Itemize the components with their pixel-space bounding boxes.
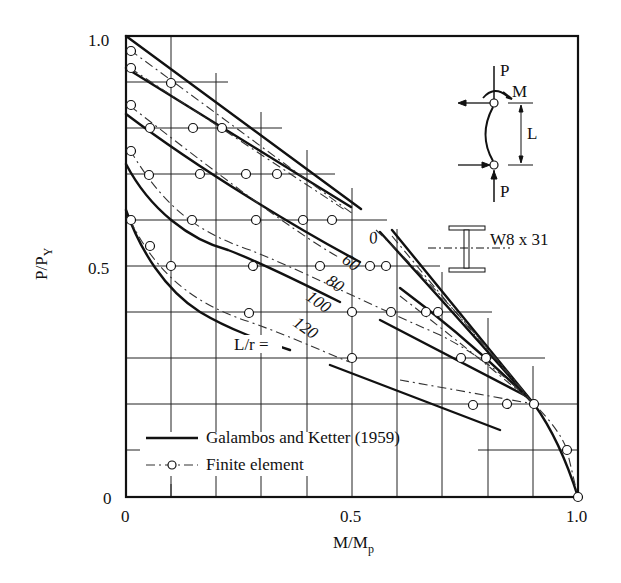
- svg-text:M/Mp: M/Mp: [333, 533, 374, 556]
- y-tick-05: 0.5: [88, 259, 109, 278]
- curve-labels: 0 60 80 100 120 L/r =: [232, 228, 380, 354]
- y-tick-0: 0: [103, 489, 112, 508]
- svg-text:P/PY: P/PY: [32, 247, 55, 280]
- parameter-label: L/r =: [234, 335, 269, 354]
- curve-solid-80: [126, 114, 534, 404]
- legend-finite-element: Finite element: [206, 455, 304, 474]
- curve-label-80: 80: [323, 271, 348, 297]
- curve-label-0: 0: [367, 228, 379, 248]
- x-tick-05: 0.5: [340, 507, 361, 526]
- x-tick-0: 0: [121, 507, 130, 526]
- x-axis-title: M/Mp: [333, 533, 374, 556]
- diagram-load-top: P: [500, 61, 509, 80]
- legend: Galambos and Ketter (1959) Finite elemen…: [140, 428, 400, 476]
- y-axis-title: P/PY: [32, 247, 55, 280]
- section-label: W8 x 31: [490, 230, 549, 249]
- curve-solid-120: [126, 210, 500, 430]
- legend-galambos: Galambos and Ketter (1959): [206, 428, 400, 447]
- y-tick-1: 1.0: [88, 31, 109, 50]
- diagram-moment: M: [512, 82, 527, 101]
- interaction-curve-chart: 0 60 80 100 120 L/r = Galambos and Kette…: [0, 0, 621, 583]
- diagram-length: L: [527, 124, 537, 143]
- diagram-load-bottom: P: [500, 182, 509, 201]
- x-tick-1: 1.0: [566, 507, 587, 526]
